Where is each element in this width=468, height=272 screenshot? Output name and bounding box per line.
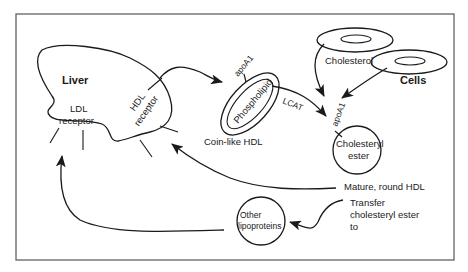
- cell-donut: [317, 28, 393, 52]
- lcat-label: LCAT: [281, 96, 304, 113]
- arrow-mature-hdl-to-liver: [172, 144, 336, 189]
- coin-like-hdl: Phospholipid apoA1 Coin-like HDL: [204, 53, 290, 147]
- receptor-tick: [148, 78, 162, 90]
- transfer-line2: cholesteryl ester: [350, 209, 419, 220]
- liver-label: Liver: [62, 74, 89, 86]
- transfer-line1: Transfer: [350, 197, 385, 208]
- svg-text:LDL: LDL: [70, 103, 87, 114]
- mature-hdl-label: Mature, round HDL: [344, 181, 425, 192]
- ldl-receptor: LDL receptor: [50, 103, 94, 150]
- apoa1-label: apoA1: [329, 101, 347, 128]
- svg-text:receptor: receptor: [59, 115, 94, 126]
- receptor-tick: [160, 126, 178, 132]
- cells: Cholesterol Cells: [317, 28, 447, 86]
- diagram-canvas: Liver LDL receptor HDL receptor Phosphol…: [0, 0, 468, 272]
- cholesterol-label: Cholesterol: [325, 55, 373, 66]
- arrow-lipoproteins-to-ldl: [61, 156, 224, 231]
- svg-text:Other: Other: [240, 210, 261, 220]
- other-lipoproteins: Other lipoproteins: [237, 197, 285, 245]
- receptor-tick: [50, 128, 59, 143]
- svg-text:Cholesteryl: Cholesteryl: [336, 138, 384, 149]
- transfer-line3: to: [350, 221, 358, 232]
- svg-text:ester: ester: [348, 150, 369, 161]
- arrow-liver-to-hdl: [160, 67, 222, 82]
- apoa1-tick: [244, 74, 246, 82]
- arrow-transfer: [290, 200, 343, 228]
- hdl-receptor: HDL receptor: [121, 86, 160, 128]
- cholesteryl-ester: Cholesteryl ester apoA1: [329, 101, 383, 174]
- coin-like-hdl-label: Coin-like HDL: [204, 136, 263, 147]
- svg-text:lipoproteins: lipoproteins: [238, 221, 281, 231]
- receptor-tick: [140, 140, 152, 157]
- cells-label: Cells: [400, 74, 426, 86]
- arrow-cholesterol-2: [342, 68, 387, 98]
- arrow-cholesterol-1: [315, 44, 324, 96]
- liver-shape: [37, 45, 171, 141]
